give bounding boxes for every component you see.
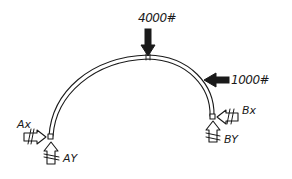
horizontal-load-label: 1000# xyxy=(231,73,270,87)
reaction-ax-arrow xyxy=(24,129,46,144)
reaction-bx-label: Bx xyxy=(242,104,257,117)
reaction-by-label: BY xyxy=(224,133,239,146)
support-pin-b xyxy=(210,114,215,119)
reaction-ax-label: Ax xyxy=(16,118,32,131)
vertical-load-label: 4000# xyxy=(138,11,177,25)
reaction-ay-arrow xyxy=(44,142,59,164)
arch-free-body-diagram: 4000# 1000# Ax AY Bx BY xyxy=(0,0,292,179)
reaction-ay-label: AY xyxy=(62,152,79,165)
reaction-by-arrow xyxy=(206,121,220,142)
arch-member xyxy=(49,55,214,136)
horizontal-load-arrow xyxy=(204,73,229,87)
support-pin-a xyxy=(48,134,53,139)
reaction-bx-arrow xyxy=(217,109,238,124)
